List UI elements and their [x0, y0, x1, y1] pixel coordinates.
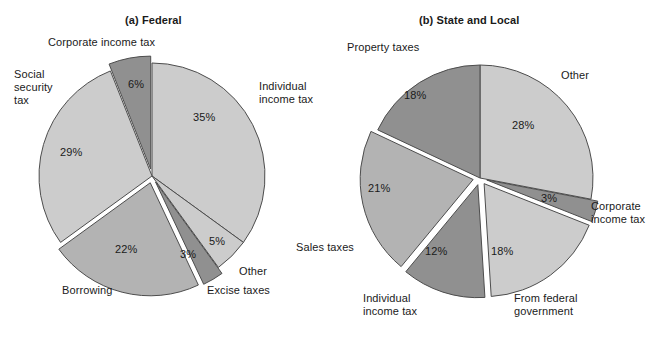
value-federal-other: 5%	[209, 235, 225, 247]
label-federal-other: Other	[239, 265, 267, 278]
pie-chart-figure: (a) Federal (b) State and Local Corporat…	[0, 0, 662, 337]
label-federal-borrowing: Borrowing	[62, 284, 112, 297]
pie-slice-other	[480, 65, 593, 199]
label-state-other: Other	[561, 69, 589, 82]
value-state-corporate-income-tax: 3%	[541, 192, 557, 204]
value-federal-corporate-income-tax: 6%	[128, 78, 144, 90]
pie--b-state-and-local	[360, 65, 598, 298]
value-state-from-federal-government: 18%	[491, 245, 513, 257]
label-federal-corporate-income-tax: Corporate income tax	[48, 36, 155, 49]
label-federal-individual-income-tax: Individual income tax	[259, 80, 313, 106]
label-state-from-federal-government: From federal government	[514, 292, 578, 318]
label-state-corporate-income-tax: Corporate income tax	[591, 200, 645, 226]
value-federal-individual-income-tax: 35%	[193, 111, 215, 123]
value-state-individual-income-tax: 12%	[425, 245, 447, 257]
label-federal-social-security-tax: Social security tax	[14, 68, 53, 107]
pie-slice-individual-income-tax	[152, 63, 265, 242]
value-state-other: 28%	[512, 119, 534, 131]
label-state-property-taxes: Property taxes	[347, 41, 419, 54]
value-state-property-taxes: 18%	[404, 89, 426, 101]
value-federal-social-security-tax: 29%	[60, 146, 82, 158]
value-federal-excise-taxes: 3%	[180, 248, 196, 260]
label-state-sales-taxes: Sales taxes	[296, 241, 354, 254]
label-federal-excise-taxes: Excise taxes	[207, 284, 270, 297]
value-state-sales-taxes: 21%	[368, 182, 390, 194]
label-state-individual-income-tax: Individual income tax	[363, 292, 417, 318]
pie--a-federal	[39, 56, 265, 296]
value-federal-borrowing: 22%	[115, 243, 137, 255]
